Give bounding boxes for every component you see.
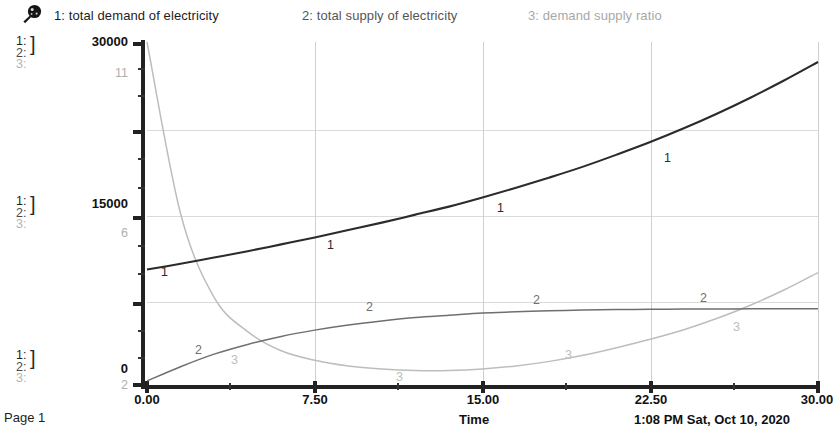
graph-page: 1: total demand of electricity 2: total …	[0, 0, 840, 441]
timestamp: 1:08 PM Sat, Oct 10, 2020	[634, 412, 790, 427]
curve-marker-2: 2	[366, 300, 373, 314]
curve-marker-3: 3	[565, 348, 572, 362]
curve-marker-1: 1	[664, 151, 671, 165]
page-label: Page 1	[4, 410, 45, 425]
curve-series-1	[147, 62, 818, 270]
curve-series-2	[147, 309, 818, 381]
xtick-label-15: 15.00	[448, 392, 518, 407]
curve-marker-2: 2	[195, 343, 202, 357]
curve-marker-1: 1	[327, 238, 334, 252]
curve-marker-2: 2	[533, 293, 540, 307]
x-axis-title: Time	[459, 412, 489, 427]
curve-marker-3: 3	[733, 320, 740, 334]
curve-marker-1: 1	[497, 201, 504, 215]
curve-series-3	[147, 42, 818, 371]
curve-marker-1: 1	[161, 265, 168, 279]
xtick-label-0: 0.00	[112, 392, 182, 407]
xtick-label-30: 30.00	[782, 392, 840, 407]
curve-marker-3: 3	[231, 353, 238, 367]
curve-marker-3: 3	[396, 370, 403, 384]
plot-curves: 1 1 1 1 2 2 2 2 3 3 3 3	[0, 0, 840, 441]
xtick-label-7-5: 7.50	[280, 392, 350, 407]
xtick-label-22-5: 22.50	[616, 392, 686, 407]
curve-marker-2: 2	[700, 291, 707, 305]
